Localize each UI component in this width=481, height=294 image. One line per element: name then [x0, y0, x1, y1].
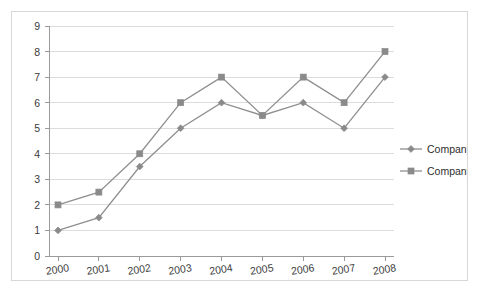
x-axis-ticks: 200020012002200320042005200620072008	[45, 256, 397, 277]
x-axis-tick-label: 2007	[331, 261, 356, 277]
square-marker-icon	[219, 74, 225, 80]
x-axis-tick-label: 2002	[127, 261, 152, 277]
y-axis-tick-label: 3	[34, 173, 40, 185]
x-axis-tick-label: 2006	[290, 261, 315, 277]
x-axis-tick-label: 2004	[208, 261, 233, 277]
square-marker-icon	[341, 100, 347, 106]
y-axis-tick-label: 7	[34, 71, 40, 83]
legend-item-label: Company B	[427, 165, 467, 177]
square-marker-icon	[55, 202, 61, 208]
x-axis-tick-label: 2003	[168, 261, 193, 277]
y-axis-tick-label: 1	[34, 224, 40, 236]
chart-frame: 0123456789 20002001200220032004200520062…	[11, 11, 468, 281]
diamond-marker-icon	[408, 146, 415, 153]
series-layer	[55, 49, 389, 234]
square-marker-icon	[178, 100, 184, 106]
y-axis-tick-label: 5	[34, 122, 40, 134]
x-axis-tick-label: 2001	[86, 261, 111, 277]
square-marker-icon	[137, 151, 143, 157]
y-axis-tick-label: 8	[34, 46, 40, 58]
square-marker-icon	[382, 49, 388, 55]
y-axis-tick-label: 9	[34, 20, 40, 32]
x-axis-tick-label: 2008	[372, 261, 397, 277]
diamond-marker-icon	[218, 99, 225, 106]
y-axis-tick-label: 2	[34, 199, 40, 211]
square-marker-icon	[408, 168, 414, 174]
x-axis-tick-label: 2000	[45, 261, 70, 277]
y-axis-ticks: 0123456789	[34, 20, 49, 262]
diamond-marker-icon	[55, 227, 62, 234]
square-marker-icon	[96, 189, 102, 195]
legend-item-label: Company A	[427, 143, 467, 155]
y-axis-tick-label: 6	[34, 97, 40, 109]
square-marker-icon	[259, 112, 265, 118]
x-axis-tick-label: 2005	[249, 261, 274, 277]
diamond-marker-icon	[300, 99, 307, 106]
line-chart: 0123456789 20002001200220032004200520062…	[12, 12, 467, 280]
axes-group	[49, 26, 394, 256]
square-marker-icon	[300, 74, 306, 80]
y-axis-tick-label: 4	[34, 148, 40, 160]
chart-legend: Company ACompany B	[400, 143, 467, 177]
y-axis-tick-label: 0	[34, 250, 40, 262]
